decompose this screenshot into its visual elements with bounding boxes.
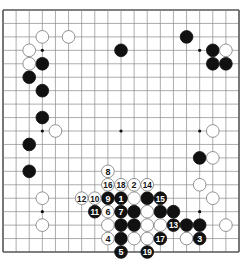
- white-stone: [23, 44, 36, 57]
- star-point: [198, 129, 201, 132]
- move-number: 19: [143, 248, 153, 257]
- white-stone: [206, 152, 219, 165]
- black-stone-move-15: 15: [154, 192, 167, 205]
- black-stone: [115, 44, 128, 57]
- white-stone: [36, 219, 49, 232]
- black-stone-move-5: 5: [115, 246, 128, 259]
- black-stone-move-1: 1: [115, 192, 128, 205]
- white-stone: [102, 219, 115, 232]
- white-stone: [141, 219, 154, 232]
- go-board: 12345678910111213141516171819: [0, 0, 244, 266]
- white-stone: [206, 192, 219, 205]
- move-number: 15: [156, 195, 166, 204]
- white-stone: [206, 125, 219, 138]
- black-stone: [206, 57, 219, 70]
- move-number: 9: [105, 194, 110, 204]
- move-number: 1: [118, 194, 123, 204]
- white-stone: [23, 57, 36, 70]
- move-number: 5: [118, 247, 123, 257]
- white-stone: [49, 125, 62, 138]
- black-stone: [23, 165, 36, 178]
- move-number: 14: [143, 181, 153, 190]
- move-number: 18: [116, 181, 126, 190]
- black-stone: [36, 111, 49, 124]
- black-stone: [180, 31, 193, 44]
- move-number: 13: [169, 221, 179, 230]
- black-stone-move-3: 3: [193, 232, 206, 245]
- black-stone-move-7: 7: [115, 205, 128, 218]
- white-stone-move-10: 10: [88, 192, 101, 205]
- black-stone: [206, 44, 219, 57]
- white-stone-move-14: 14: [141, 178, 154, 191]
- white-stone-move-12: 12: [75, 192, 88, 205]
- move-number: 16: [103, 181, 113, 190]
- move-number: 10: [90, 195, 100, 204]
- black-stone: [115, 219, 128, 232]
- white-stone-move-6: 6: [102, 205, 115, 218]
- star-point: [41, 49, 44, 52]
- black-stone-move-19: 19: [141, 246, 154, 259]
- white-stone: [220, 44, 233, 57]
- white-stone: [193, 178, 206, 191]
- white-stone: [180, 232, 193, 245]
- star-point: [198, 210, 201, 213]
- black-stone: [36, 57, 49, 70]
- black-stone: [154, 205, 167, 218]
- black-stone: [220, 57, 233, 70]
- white-stone-move-4: 4: [102, 232, 115, 245]
- move-number: 11: [90, 208, 99, 217]
- white-stone: [128, 232, 141, 245]
- move-number: 3: [197, 234, 202, 244]
- white-stone: [36, 192, 49, 205]
- white-stone: [62, 31, 75, 44]
- move-number: 6: [105, 207, 110, 217]
- black-stone-move-11: 11: [88, 205, 101, 218]
- star-point: [41, 129, 44, 132]
- black-stone-move-17: 17: [154, 232, 167, 245]
- white-stone: [154, 219, 167, 232]
- star-point: [41, 210, 44, 213]
- black-stone: [128, 205, 141, 218]
- move-number: 8: [105, 167, 110, 177]
- black-stone: [141, 192, 154, 205]
- black-stone: [115, 232, 128, 245]
- white-stone-move-2: 2: [128, 178, 141, 191]
- black-stone: [36, 84, 49, 97]
- star-point: [119, 129, 122, 132]
- white-stone: [36, 31, 49, 44]
- move-number: 4: [105, 234, 110, 244]
- black-stone: [193, 219, 206, 232]
- black-stone: [23, 71, 36, 84]
- move-number: 12: [77, 195, 87, 204]
- white-stone: [220, 219, 233, 232]
- black-stone: [180, 219, 193, 232]
- move-number: 17: [156, 235, 166, 244]
- black-stone-move-13: 13: [167, 219, 180, 232]
- white-stone: [141, 232, 154, 245]
- white-stone-move-18: 18: [115, 178, 128, 191]
- move-number: 2: [132, 180, 137, 190]
- black-stone: [193, 152, 206, 165]
- star-point: [198, 49, 201, 52]
- white-stone: [128, 192, 141, 205]
- white-stone: [141, 205, 154, 218]
- black-stone: [128, 219, 141, 232]
- black-stone: [23, 138, 36, 151]
- white-stone-move-8: 8: [102, 165, 115, 178]
- white-stone-move-16: 16: [102, 178, 115, 191]
- move-number: 7: [118, 207, 123, 217]
- black-stone-move-9: 9: [102, 192, 115, 205]
- black-stone: [167, 205, 180, 218]
